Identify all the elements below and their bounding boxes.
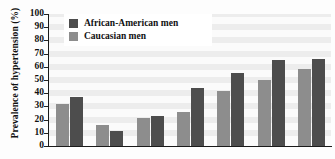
legend-label: Caucasian men bbox=[84, 32, 146, 42]
y-axis-tick-label: 10 bbox=[18, 128, 44, 138]
bar-chart: Prevalence of hypertension (%) 010203040… bbox=[0, 0, 335, 159]
bar bbox=[151, 116, 164, 146]
bar bbox=[298, 69, 311, 146]
y-axis-tick-labels: 0102030405060708090100 bbox=[18, 10, 44, 150]
bar bbox=[217, 91, 230, 146]
bar bbox=[272, 60, 285, 146]
legend-label: African-American men bbox=[84, 19, 178, 29]
legend-item: Caucasian men bbox=[69, 30, 204, 43]
bar bbox=[191, 88, 204, 146]
legend-swatch-icon bbox=[69, 32, 78, 41]
y-axis-tick-label: 100 bbox=[18, 9, 44, 19]
legend: African-American menCaucasian men bbox=[64, 14, 212, 46]
legend-item: African-American men bbox=[69, 17, 204, 30]
bar bbox=[177, 112, 190, 146]
y-axis-tick-label: 70 bbox=[18, 49, 44, 59]
y-axis-title-container: Prevalence of hypertension (%) bbox=[0, 0, 18, 159]
y-axis-tick-label: 30 bbox=[18, 102, 44, 112]
y-axis-tick-label: 0 bbox=[18, 141, 44, 151]
y-axis-tick-label: 80 bbox=[18, 36, 44, 46]
y-axis-tick-label: 40 bbox=[18, 88, 44, 98]
bar bbox=[258, 80, 271, 146]
bar bbox=[110, 131, 123, 146]
bar bbox=[56, 104, 69, 146]
bar bbox=[137, 118, 150, 146]
bar bbox=[312, 59, 325, 146]
y-axis-tick-label: 20 bbox=[18, 115, 44, 125]
bar bbox=[96, 125, 109, 146]
y-axis-tick-label: 90 bbox=[18, 22, 44, 32]
y-axis-tick-label: 60 bbox=[18, 62, 44, 72]
legend-swatch-icon bbox=[69, 19, 78, 28]
bar bbox=[70, 97, 83, 146]
bar bbox=[231, 73, 244, 146]
y-axis-tick-label: 50 bbox=[18, 75, 44, 85]
x-axis-line bbox=[46, 146, 332, 147]
